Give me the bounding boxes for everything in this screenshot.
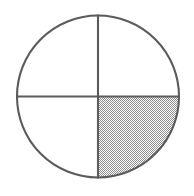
fraction-circle-figure bbox=[0, 0, 194, 196]
fraction-circle-diagram bbox=[0, 0, 194, 196]
